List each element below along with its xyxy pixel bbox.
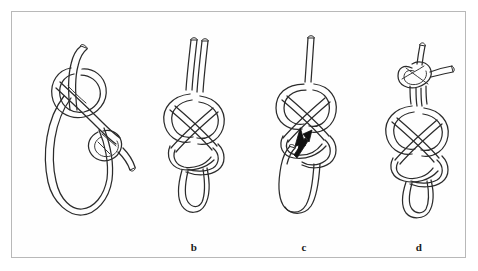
panel-label-d: d: [360, 241, 478, 253]
knot-step-b-illustration: [140, 24, 248, 220]
panel-label-c: c: [250, 241, 358, 253]
knot-step-d: d: [360, 24, 478, 259]
knot-figure: b: [0, 0, 478, 271]
knot-step-b: b: [140, 24, 248, 259]
figure-frame: b: [11, 11, 466, 258]
knot-step-c: c: [250, 24, 358, 259]
knot-step-a-illustration: [24, 24, 142, 220]
knot-step-c-illustration: [250, 24, 358, 220]
knot-step-a: [24, 24, 142, 259]
panel-label-b: b: [140, 241, 248, 253]
knot-step-d-illustration: [360, 24, 478, 220]
